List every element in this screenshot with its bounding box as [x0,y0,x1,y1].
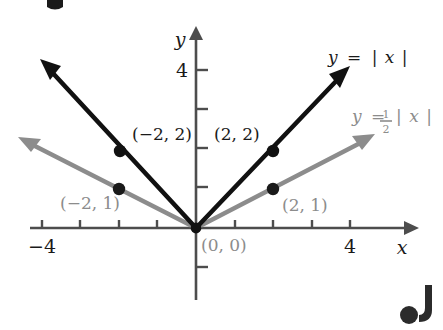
eq-gray-var: x [409,106,419,126]
y-axis-label: y [174,28,186,50]
x-tick-label-4: 4 [344,235,356,257]
point-label-neg2-1: (−2, 1) [60,193,120,213]
eq-gray-abs-close: | [426,106,432,126]
gray-right-branch [196,140,366,228]
gray-point-2-1 [267,183,279,195]
equation-label-gray: y = 1 2 | x | [351,106,432,136]
eq-black-equals: = [347,47,361,67]
x-axis-arrowhead [404,221,419,235]
eq-gray-lhs: y [351,106,362,126]
absolute-value-graph: −4 4 4 x y [0,0,443,330]
point-label-2-2: (2, 2) [214,124,260,144]
black-point-2-2 [267,145,279,157]
end-of-figure-note-icon [400,285,432,324]
point-label-origin: (0, 0) [201,235,247,255]
y-axis-arrowhead [189,26,203,40]
eq-gray-abs-open: | [396,106,402,126]
eq-black-lhs: y [327,47,338,67]
gray-left-branch [27,142,196,228]
point-label-neg2-2: (−2, 2) [132,124,192,144]
svg-text:y = |: y = | x | [327,47,408,67]
svg-text:y =: y = [351,106,385,126]
figure-container: −4 4 4 x y [0,0,443,330]
eq-black-abs-close: | [402,47,408,67]
point-label-2-1: (2, 1) [282,195,328,215]
origin-point [191,223,202,234]
x-axis-label: x [397,236,408,258]
svg-text:| x |: | x | [396,106,432,126]
x-tick-label-neg4: −4 [28,235,56,257]
y-tick-label-4: 4 [176,59,188,81]
eq-gray-numerator: 1 [383,108,390,121]
top-caption-remnant [47,0,63,10]
black-point-neg2-2 [114,145,126,157]
eq-gray-denominator: 2 [383,123,390,136]
eq-black-abs-open: | [372,47,378,67]
eq-black-var: x [385,47,395,67]
equation-label-black: y = | x | [327,47,408,67]
axis-group: −4 4 4 x y [28,26,419,300]
